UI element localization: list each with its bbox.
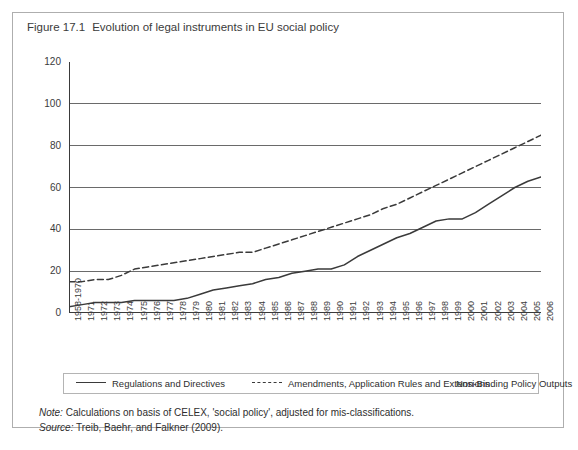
x-axis-tick-label: 1992 [361, 301, 371, 321]
x-axis-tick-label: 1978 [178, 301, 188, 321]
figure-title: Figure 17.1Evolution of legal instrument… [27, 21, 339, 33]
x-axis-tick-label: 1981 [217, 301, 227, 321]
x-axis-tick-label: 1977 [165, 301, 175, 321]
x-axis-tick-label: 1973 [112, 301, 122, 321]
x-axis-tick-label: 1971 [86, 301, 96, 321]
note-label: Note: [39, 407, 63, 418]
source-text: Treib, Baehr, and Falkner (2009). [73, 422, 223, 433]
legend-swatch-dashed-icon [252, 382, 282, 383]
x-axis-tick-label: 1983 [243, 301, 253, 321]
x-axis-tick-label: 1958-1970 [73, 278, 83, 321]
note-line: Note: Calculations on basis of CELEX, 's… [39, 405, 414, 420]
x-axis-tick-label: 1994 [388, 301, 398, 321]
note-text: Calculations on basis of CELEX, 'social … [63, 407, 414, 418]
source-line: Source: Treib, Baehr, and Falkner (2009)… [39, 420, 414, 435]
x-axis-tick-label: 1987 [296, 301, 306, 321]
x-axis-tick-label: 1976 [152, 301, 162, 321]
x-axis-tick-label: 1972 [99, 301, 109, 321]
x-axis-tick-label: 1996 [414, 301, 424, 321]
x-axis-tick-label: 1980 [204, 301, 214, 321]
y-axis-tick-label: 100 [27, 98, 61, 109]
legend-swatch-solid-icon [76, 382, 106, 383]
x-axis-tick-label: 1979 [191, 301, 201, 321]
x-axis-tick-label: 2005 [532, 301, 542, 321]
x-axis-tick-label: 1974 [125, 301, 135, 321]
legend-entry-2: Non-Binding Policy Outputs [456, 377, 572, 389]
x-axis-tick-label: 1997 [427, 301, 437, 321]
x-axis-tick-label: 1999 [453, 301, 463, 321]
x-axis-tick-label: 1975 [139, 301, 149, 321]
x-axis-tick-label: 1984 [257, 301, 267, 321]
y-axis-tick-label: 0 [27, 307, 61, 318]
legend-label: Regulations and Directives [112, 378, 225, 389]
x-axis-tick-label: 1982 [230, 301, 240, 321]
legend-entry-0: Regulations and Directives [76, 377, 225, 389]
figure-frame: Figure 17.1Evolution of legal instrument… [12, 12, 564, 428]
y-axis-tick-label: 60 [27, 182, 61, 193]
figure-title-text: Evolution of legal instruments in EU soc… [92, 21, 339, 33]
x-axis-tick-label: 2004 [519, 301, 529, 321]
y-axis-tick-label: 40 [27, 223, 61, 234]
y-axis-tick-label: 80 [27, 140, 61, 151]
legend-entry-1: Amendments, Application Rules and Extens… [252, 377, 490, 389]
x-axis-tick-label: 1991 [348, 301, 358, 321]
x-axis-tick-label: 2000 [466, 301, 476, 321]
y-axis-tick-label: 120 [27, 56, 61, 67]
x-axis-tick-label: 2002 [493, 301, 503, 321]
legend-label: Non-Binding Policy Outputs [456, 378, 572, 389]
x-axis-tick-label: 1985 [270, 301, 280, 321]
x-axis-tick-label: 2001 [479, 301, 489, 321]
x-axis-tick-label: 2003 [506, 301, 516, 321]
x-axis-tick-label: 2006 [545, 301, 555, 321]
x-axis-tick-label: 1990 [335, 301, 345, 321]
y-axis-tick-label: 20 [27, 265, 61, 276]
x-axis-tick-label: 1995 [401, 301, 411, 321]
note-and-source: Note: Calculations on basis of CELEX, 's… [39, 405, 414, 435]
x-axis-tick-label: 1989 [322, 301, 332, 321]
x-axis-tick-label: 1993 [375, 301, 385, 321]
source-label: Source: [39, 422, 73, 433]
chart-axes [69, 62, 541, 313]
x-axis-tick-label: 1998 [440, 301, 450, 321]
chart-plot-area [69, 62, 541, 313]
x-axis-tick-label: 1988 [309, 301, 319, 321]
chart-legend: Regulations and DirectivesAmendments, Ap… [63, 373, 539, 394]
figure-number: Figure 17.1 [27, 21, 85, 33]
x-axis-tick-label: 1986 [283, 301, 293, 321]
